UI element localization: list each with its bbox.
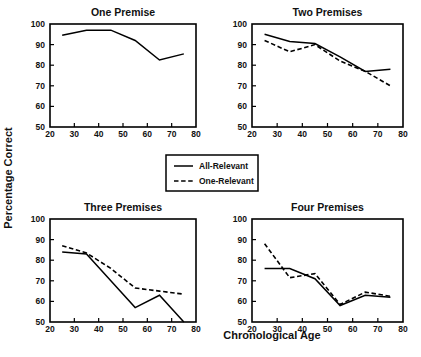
y-tick-label: 100 — [233, 214, 247, 224]
x-tick-label: 60 — [348, 324, 358, 334]
multi-panel-line-chart: One Premise506070809010020304050607080Tw… — [0, 0, 421, 357]
y-tick-label: 90 — [36, 40, 46, 50]
x-tick-label: 30 — [70, 129, 80, 139]
x-tick-label: 50 — [118, 129, 128, 139]
y-tick-label: 100 — [31, 214, 45, 224]
x-tick-label: 60 — [348, 129, 358, 139]
x-tick-label: 70 — [373, 129, 383, 139]
x-tick-label: 50 — [323, 129, 333, 139]
y-tick-label: 90 — [36, 235, 46, 245]
y-tick-label: 90 — [238, 40, 248, 50]
y-tick-label: 80 — [36, 255, 46, 265]
panel-title: Four Premises — [291, 201, 364, 213]
x-tick-label: 80 — [398, 129, 408, 139]
y-tick-label: 100 — [31, 19, 45, 29]
y-tick-label: 60 — [238, 296, 248, 306]
x-tick-label: 30 — [70, 324, 80, 334]
y-tick-label: 100 — [233, 19, 247, 29]
y-tick-label: 60 — [36, 101, 46, 111]
legend-label: One-Relevant — [199, 176, 254, 186]
x-tick-label: 70 — [167, 129, 177, 139]
panel-title: One Premise — [91, 6, 155, 18]
panel-title: Three Premises — [84, 201, 162, 213]
y-tick-label: 60 — [36, 296, 46, 306]
x-tick-label: 40 — [298, 129, 308, 139]
x-tick-label: 20 — [45, 324, 55, 334]
x-tick-label: 40 — [94, 324, 104, 334]
legend-label: All-Relevant — [199, 161, 248, 171]
x-tick-label: 80 — [191, 129, 201, 139]
x-tick-label: 80 — [398, 324, 408, 334]
y-tick-label: 70 — [36, 276, 46, 286]
x-axis-title: Chronological Age — [223, 329, 320, 341]
y-tick-label: 80 — [36, 60, 46, 70]
x-tick-label: 50 — [323, 324, 333, 334]
x-tick-label: 70 — [167, 324, 177, 334]
y-tick-label: 90 — [238, 235, 248, 245]
y-tick-label: 70 — [36, 81, 46, 91]
x-tick-label: 70 — [373, 324, 383, 334]
y-tick-label: 70 — [238, 81, 248, 91]
y-tick-label: 50 — [36, 317, 46, 327]
chart-legend: All-RelevantOne-Relevant — [166, 155, 258, 191]
x-tick-label: 60 — [143, 324, 153, 334]
y-tick-label: 70 — [238, 276, 248, 286]
x-tick-label: 40 — [94, 129, 104, 139]
y-tick-label: 50 — [238, 317, 248, 327]
x-tick-label: 20 — [247, 129, 257, 139]
panel-title: Two Premises — [293, 6, 363, 18]
y-axis-title: Percentage Correct — [2, 127, 14, 229]
y-tick-label: 50 — [238, 122, 248, 132]
y-tick-label: 80 — [238, 255, 248, 265]
y-tick-label: 80 — [238, 60, 248, 70]
x-tick-label: 20 — [45, 129, 55, 139]
x-tick-label: 60 — [143, 129, 153, 139]
x-tick-label: 80 — [191, 324, 201, 334]
y-tick-label: 50 — [36, 122, 46, 132]
x-tick-label: 50 — [118, 324, 128, 334]
x-tick-label: 30 — [272, 129, 282, 139]
y-tick-label: 60 — [238, 101, 248, 111]
